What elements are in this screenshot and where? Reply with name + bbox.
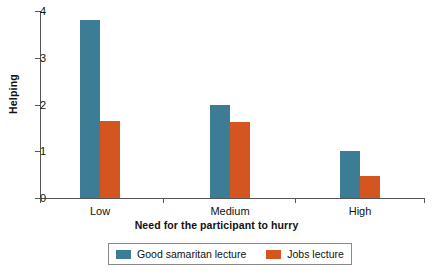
bar-low-jobs-lecture bbox=[100, 121, 120, 198]
legend-item-jobs-lecture: Jobs lecture bbox=[266, 248, 344, 260]
chart-legend: Good samaritan lecture Jobs lecture bbox=[108, 243, 352, 265]
x-category-label-high: High bbox=[315, 204, 405, 218]
bar-medium-jobs-lecture bbox=[230, 122, 250, 198]
legend-swatch-icon-orange bbox=[266, 250, 281, 259]
legend-label: Good samaritan lecture bbox=[137, 248, 246, 260]
x-axis-line bbox=[40, 198, 425, 199]
x-axis-title: Need for the participant to hurry bbox=[0, 219, 433, 231]
x-tick-mark bbox=[295, 198, 296, 203]
bar-high-jobs-lecture bbox=[360, 176, 380, 198]
legend-swatch-icon-blue bbox=[116, 250, 131, 259]
plot-area bbox=[40, 11, 424, 198]
bar-low-good-samaritan-lecture bbox=[80, 20, 100, 198]
x-category-label-low: Low bbox=[55, 204, 145, 218]
x-tick-mark bbox=[424, 198, 425, 203]
bar-chart: Helping 01234 LowMediumHigh Need for the… bbox=[0, 0, 433, 278]
legend-label: Jobs lecture bbox=[287, 248, 344, 260]
y-axis-title: Helping bbox=[7, 59, 19, 129]
bar-medium-good-samaritan-lecture bbox=[210, 105, 230, 199]
x-category-label-medium: Medium bbox=[185, 204, 275, 218]
x-tick-mark bbox=[40, 198, 41, 203]
legend-item-good-samaritan-lecture: Good samaritan lecture bbox=[116, 248, 246, 260]
bar-high-good-samaritan-lecture bbox=[340, 151, 360, 198]
x-tick-mark bbox=[163, 198, 164, 203]
